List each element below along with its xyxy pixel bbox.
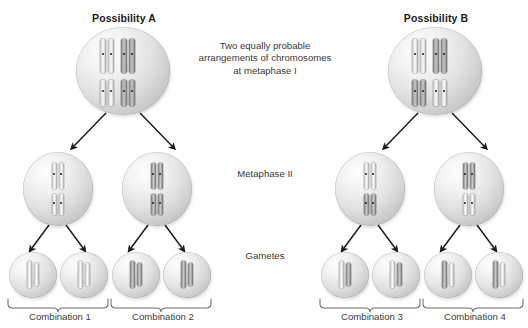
chromosome [449, 263, 454, 286]
centromere-dot [435, 90, 437, 92]
possibility-b-title: Possibility B [370, 12, 502, 24]
centromere-dot [123, 53, 125, 55]
centromere-dot [131, 53, 133, 55]
centromere-dot [422, 90, 424, 92]
metaphase-ii-cell-a-right [122, 152, 192, 226]
chromosome [137, 263, 142, 286]
chromosome [52, 194, 57, 215]
metaphase-one-note: Two equally probable arrangements of chr… [196, 40, 334, 77]
chromosome [52, 163, 57, 189]
chromosome [397, 263, 402, 286]
chromosome [129, 39, 135, 73]
centromere-dot [102, 90, 104, 92]
meiosis-independent-assortment-figure: Possibility A Possibility B Two equally … [0, 0, 528, 328]
chromosome [158, 163, 163, 189]
centromere-dot [110, 90, 112, 92]
metaphase-i-cell-possibility-a [76, 27, 170, 115]
combination-label-2: Combination 2 [111, 311, 215, 322]
chromosome [433, 80, 439, 106]
stage-label-gametes: Gametes [210, 250, 320, 261]
chromosome [412, 39, 418, 73]
chromosome [441, 39, 447, 73]
gamete-cell-4b [475, 252, 523, 298]
metaphase-ii-cell-a-left [23, 152, 93, 226]
metaphase-i-cell-possibility-b [388, 27, 482, 115]
metaphase-ii-cell-b-left [335, 152, 405, 226]
chromosome [420, 80, 426, 106]
centromere-dot [102, 53, 104, 55]
chromosome [27, 261, 32, 288]
centromere-dot [443, 53, 445, 55]
chromosome [129, 80, 135, 106]
chromosome [151, 194, 156, 215]
stage-label-metaphase-ii: Metaphase II [210, 168, 320, 179]
chromosome [100, 39, 106, 73]
chromosome [412, 80, 418, 106]
chromosome [85, 263, 90, 286]
possibility-a-title: Possibility A [58, 12, 190, 24]
metaphase-ii-cell-b-right [434, 152, 504, 226]
chromosome [108, 80, 114, 106]
gamete-cell-4a [424, 252, 472, 298]
chromosome [59, 163, 64, 189]
chromosome [420, 39, 426, 73]
chromosome [34, 263, 39, 286]
chromosome [364, 163, 369, 189]
centromere-dot [131, 90, 133, 92]
chromosome [59, 194, 64, 215]
chromosome [130, 261, 135, 288]
chromosome [463, 194, 468, 215]
chromosome [470, 163, 475, 189]
chromosome [371, 163, 376, 189]
centromere-dot [110, 53, 112, 55]
chromosome [158, 194, 163, 215]
centromere-dot [435, 53, 437, 55]
chromosome [121, 80, 127, 106]
centromere-dot [123, 90, 125, 92]
chromosome [470, 194, 475, 215]
combination-label-1: Combination 1 [8, 311, 112, 322]
chromosome [151, 163, 156, 189]
chromosome [433, 39, 439, 73]
combination-label-3: Combination 3 [320, 311, 424, 322]
chromosome [441, 80, 447, 106]
chromosome [364, 194, 369, 215]
chromosome [463, 163, 468, 189]
gamete-cell-2b [163, 252, 211, 298]
centromere-dot [443, 90, 445, 92]
centromere-dot [414, 90, 416, 92]
centromere-dot [422, 53, 424, 55]
centromere-dot [414, 53, 416, 55]
gamete-cell-3a [321, 252, 369, 298]
chromosome [339, 261, 344, 288]
chromosome [442, 261, 447, 288]
chromosome [371, 194, 376, 215]
gamete-cell-1b [60, 252, 108, 298]
chromosome [78, 261, 83, 288]
chromosome [493, 261, 498, 288]
chromosome [121, 39, 127, 73]
gamete-cell-3b [372, 252, 420, 298]
chromosome [500, 263, 505, 286]
gamete-cell-2a [112, 252, 160, 298]
chromosome [188, 263, 193, 286]
chromosome [346, 263, 351, 286]
chromosome [108, 39, 114, 73]
chromosome [181, 261, 186, 288]
chromosome [100, 80, 106, 106]
chromosome [390, 261, 395, 288]
gamete-cell-1a [9, 252, 57, 298]
combination-label-4: Combination 4 [423, 311, 527, 322]
